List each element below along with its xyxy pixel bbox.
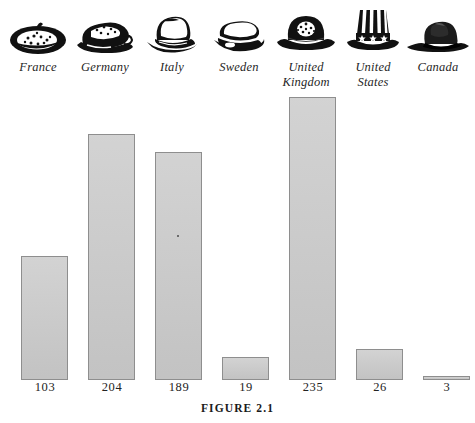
value-label-germany: 204 (78, 380, 146, 395)
value-label-united-kingdom: 235 (279, 380, 347, 395)
category-united-states: United States (339, 0, 407, 96)
value-label-united-states: 26 (346, 380, 414, 395)
category-label-germany: Germany (81, 60, 129, 75)
category-sweden: Sweden (205, 0, 273, 96)
category-label-sweden: Sweden (219, 60, 258, 75)
value-label-row: 103 204 189 19 235 26 3 (0, 380, 475, 400)
fedora-hat-icon (138, 0, 206, 56)
figure-container: France Germany (0, 0, 475, 423)
category-france: France (4, 0, 72, 96)
bar-united-states (356, 349, 403, 380)
figure-caption: FIGURE 2.1 (0, 402, 475, 414)
category-header-row: France Germany (0, 0, 475, 96)
bar-sweden (222, 357, 269, 380)
bar-italy (155, 152, 202, 380)
bar-france (21, 256, 68, 380)
category-label-canada: Canada (418, 60, 459, 75)
value-label-italy: 189 (145, 380, 213, 395)
wide-brim-hat-icon (404, 0, 472, 56)
value-label-sweden: 19 (212, 380, 280, 395)
bar-germany (88, 134, 135, 380)
category-label-france: France (19, 60, 56, 75)
bowler-hat-icon (272, 0, 340, 56)
value-label-france: 103 (11, 380, 79, 395)
category-germany: Germany (71, 0, 139, 96)
category-italy: Italy (138, 0, 206, 96)
bar-united-kingdom (289, 97, 336, 380)
category-united-kingdom: United Kingdom (272, 0, 340, 96)
beret-hat-icon (4, 0, 72, 56)
category-label-italy: Italy (160, 60, 184, 75)
category-label-united-states: United States (355, 60, 390, 89)
value-label-canada: 3 (413, 380, 475, 395)
peaked-cap-icon (71, 0, 139, 56)
category-canada: Canada (404, 0, 472, 96)
plot-area (0, 96, 475, 380)
uncle-sam-top-hat-icon (339, 0, 407, 56)
flat-hat-icon (205, 0, 273, 56)
print-speck (177, 235, 179, 237)
category-label-united-kingdom: United Kingdom (282, 60, 329, 89)
